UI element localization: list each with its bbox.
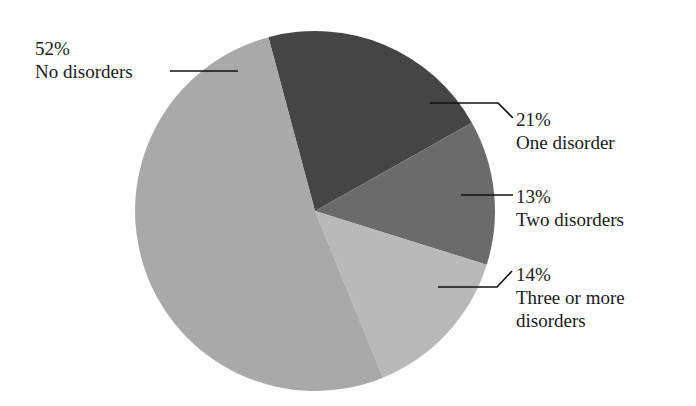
slice-label-one-disorder: 21% One disorder xyxy=(516,108,615,154)
pie-slices xyxy=(135,31,495,391)
slice-percent: 14% xyxy=(516,263,625,286)
slice-label-two-disorders: 13% Two disorders xyxy=(516,185,624,231)
slice-name: No disorders xyxy=(35,60,133,83)
slice-name: Two disorders xyxy=(516,208,624,231)
slice-name: One disorder xyxy=(516,131,615,154)
slice-name-line1: Three or more xyxy=(516,286,625,309)
slice-label-three-or-more: 14% Three or more disorders xyxy=(516,263,625,332)
slice-name-line2: disorders xyxy=(516,309,625,332)
slice-percent: 13% xyxy=(516,185,624,208)
slice-label-no-disorders: 52% No disorders xyxy=(35,37,133,83)
slice-percent: 52% xyxy=(35,37,133,60)
slice-percent: 21% xyxy=(516,108,615,131)
